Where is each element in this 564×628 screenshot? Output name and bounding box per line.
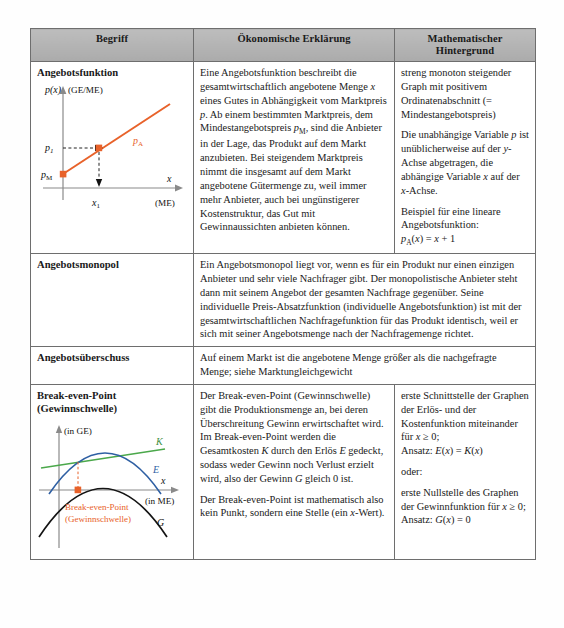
table-row: Angebotsüberschuss Auf einem Markt ist d… xyxy=(31,347,536,385)
column-header-mathematischer-hintergrund: Mathematischer Hintergrund xyxy=(395,29,536,62)
math-paragraph-2: Die unabhängige Variable p ist unübliche… xyxy=(401,128,529,197)
econ-cell-angebotsfunktion: Eine Angebotsfunktion beschreibt die ges… xyxy=(194,62,395,254)
y-axis-arrow xyxy=(56,425,62,433)
term-cell-angebotsueberschuss: Angebotsüberschuss xyxy=(31,347,194,385)
term-label: Angebotsfunktion xyxy=(37,66,187,79)
econ-cell-break-even-point: Der Break-even-Point (Gewinnschwelle) gi… xyxy=(194,384,395,559)
x-axis-label: x xyxy=(166,173,172,184)
y-unit-label: (GE/ME) xyxy=(68,85,103,95)
term-cell-angebotsfunktion: Angebotsfunktion xyxy=(31,62,194,254)
label-pm: pM xyxy=(40,169,53,182)
x-axis-label: x xyxy=(160,475,166,486)
math-paragraph-2: oder: xyxy=(401,465,529,479)
glossary-table: Begriff Ökonomische Erklärung Mathematis… xyxy=(30,28,536,560)
term-label: Angebotsüberschuss xyxy=(37,351,187,364)
math-paragraph-3: erste Nullstelle des Graphen der Gewinnf… xyxy=(401,486,529,527)
term-cell-angebotsmonopol: Angebotsmonopol xyxy=(31,254,194,347)
point-marker-pm xyxy=(60,171,67,178)
document-page: Begriff Ökonomische Erklärung Mathematis… xyxy=(0,0,564,628)
angebotsfunktion-diagram: p(x) (GE/ME) x (ME) p1 pM x1 pA xyxy=(37,82,187,210)
break-even-marker xyxy=(75,487,82,494)
x-unit-label: (ME) xyxy=(155,198,175,208)
y-unit-label: (in GE) xyxy=(64,426,92,436)
econ-paragraph: Eine Angebotsfunktion beschreibt die ges… xyxy=(200,66,388,234)
table-header-row: Begriff Ökonomische Erklärung Mathematis… xyxy=(31,29,536,62)
x-unit-label: (in ME) xyxy=(145,496,174,506)
math-paragraph-1: streng monoton steigender Graph mit posi… xyxy=(401,66,529,121)
y-axis-label: p(x) xyxy=(44,84,62,96)
curve-label-pa: pA xyxy=(132,135,143,148)
quantity-guide-arrow xyxy=(96,179,102,187)
table-row: Angebotsfunktion xyxy=(31,62,536,254)
term-label: Angebotsmonopol xyxy=(37,258,187,271)
econ-paragraph-2: Der Break-even-Point ist mathematisch al… xyxy=(200,493,388,521)
label-x1: x1 xyxy=(91,197,100,210)
column-header-oekonomische-erklaerung: Ökonomische Erklärung xyxy=(194,29,395,62)
curve-label-K: K xyxy=(155,436,164,447)
econ-cell-angebotsmonopol: Ein Angebotsmonopol liegt vor, wenn es f… xyxy=(194,254,536,347)
x-axis-arrow xyxy=(175,185,183,192)
x-axis-arrow xyxy=(171,487,179,494)
break-even-point-diagram: (in GE) x (in ME) K E G Break-even-Point… xyxy=(37,418,187,554)
math-cell-break-even-point: erste Schnittstelle der Graphen der Erlö… xyxy=(395,384,536,559)
econ-paragraph: Auf einem Markt ist die angebotene Menge… xyxy=(200,351,529,379)
point-marker-p1 xyxy=(96,145,103,152)
math-paragraph-3: Beispiel für eine lineare Angebotsfunkti… xyxy=(401,205,529,249)
econ-cell-angebotsueberschuss: Auf einem Markt ist die angebotene Menge… xyxy=(194,347,536,385)
annotation-break-even-line1: Break-even-Point xyxy=(65,502,129,512)
term-label: Break-even-Point (Gewinnschwelle) xyxy=(37,389,187,415)
label-p1: p1 xyxy=(44,142,54,155)
econ-paragraph-1: Der Break-even-Point (Gewinnschwelle) gi… xyxy=(200,389,388,486)
econ-paragraph: Ein Angebotsmonopol liegt vor, wenn es f… xyxy=(200,258,529,341)
supply-curve-line xyxy=(63,104,170,174)
curve-label-E: E xyxy=(152,464,159,475)
column-header-begriff: Begriff xyxy=(31,29,194,62)
math-paragraph-1: erste Schnittstelle der Graphen der Erlö… xyxy=(401,389,529,458)
table-row: Break-even-Point (Gewinnschwelle) xyxy=(31,384,536,559)
annotation-break-even-line2: (Gewinnschwelle) xyxy=(65,514,131,524)
curve-label-G: G xyxy=(157,517,164,528)
table-row: Angebotsmonopol Ein Angebotsmonopol lieg… xyxy=(31,254,536,347)
term-cell-break-even-point: Break-even-Point (Gewinnschwelle) xyxy=(31,384,194,559)
break-even-svg: (in GE) x (in ME) K E G Break-even-Point… xyxy=(37,418,189,554)
angebotsfunktion-svg: p(x) (GE/ME) x (ME) p1 pM x1 pA xyxy=(37,82,187,210)
math-cell-angebotsfunktion: streng monoton steigender Graph mit posi… xyxy=(395,62,536,254)
